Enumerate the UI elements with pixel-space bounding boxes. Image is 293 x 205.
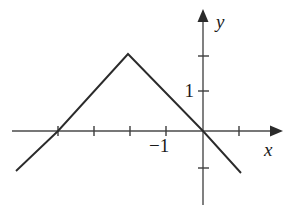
y-axis-arrowhead [198, 9, 209, 22]
y-tick-label-one: 1 [185, 80, 195, 101]
x-axis-arrowhead [270, 126, 283, 137]
x-axis-label: x [263, 139, 273, 160]
graph-figure: y x 1 −1 [0, 0, 293, 205]
x-tick-label-negative-one: −1 [149, 135, 169, 156]
tent-function-curve [16, 54, 241, 173]
y-axis-label: y [214, 11, 225, 32]
